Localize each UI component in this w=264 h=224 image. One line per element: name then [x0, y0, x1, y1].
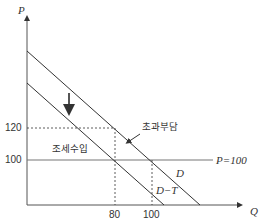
excess-burden-label: 초과부담 — [142, 121, 178, 132]
tax-revenue-label: 조세수입 — [52, 143, 88, 154]
demand-after-tax-curve — [27, 83, 164, 205]
tax-incidence-diagram: P Q P=100 D D−T 120 100 80 100 조세수입 초과부담 — [0, 0, 264, 224]
demand-after-tax-label: D−T — [155, 184, 178, 196]
tick-y-100: 100 — [5, 154, 22, 165]
tick-x-100: 100 — [143, 209, 160, 220]
tick-x-80: 80 — [109, 209, 121, 220]
supply-label: P=100 — [215, 154, 247, 166]
x-axis-label: Q — [250, 205, 258, 217]
excess-burden-pointer-icon — [128, 134, 140, 142]
y-axis-label: P — [17, 4, 25, 16]
demand-label: D — [175, 167, 184, 179]
tick-y-120: 120 — [5, 122, 22, 133]
